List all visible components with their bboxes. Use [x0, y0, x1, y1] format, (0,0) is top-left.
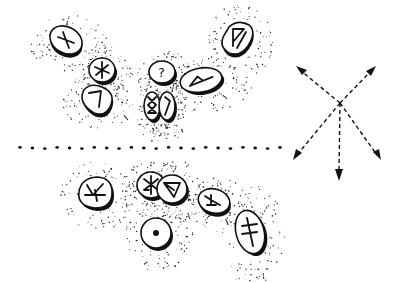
arrow-down-left-icon: [297, 103, 340, 155]
arrow-up-right-icon: [340, 70, 372, 103]
stone-algiz-inverted: [79, 177, 114, 211]
arrow-down-right-icon: [340, 103, 377, 155]
lower-stone-group: [79, 172, 272, 260]
rune-stones-illustration: ?: [0, 0, 403, 283]
stone-hagalaz: [89, 58, 117, 85]
stone-sowilo-dot: [141, 218, 173, 251]
arrow-up-left-icon: [300, 70, 340, 103]
direction-arrows: [293, 66, 381, 181]
dotted-divider-line: [18, 146, 282, 150]
stone-kenaz: [78, 82, 117, 120]
stone-blank: ?: [149, 61, 177, 86]
rune-dot-icon: [153, 230, 159, 236]
stone-y: [157, 175, 189, 206]
rune-question-icon: ?: [158, 65, 165, 80]
upper-stone-group: ?: [43, 18, 258, 123]
stone-dagger: [231, 207, 272, 260]
stone-wunjo: [218, 18, 258, 62]
arrow-down-icon: [339, 103, 340, 172]
stone-gebo: [43, 20, 89, 63]
